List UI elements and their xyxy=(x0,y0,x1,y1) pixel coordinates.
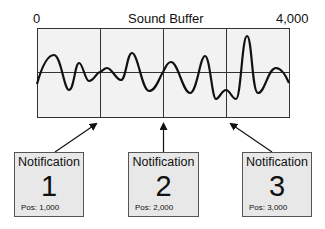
arrow-3 xyxy=(231,124,272,152)
notification-box-3: Notification 3 Pos: 3,000 xyxy=(242,152,312,217)
notification-number: 3 xyxy=(243,172,311,201)
arrow-1 xyxy=(55,124,96,152)
notification-position: Pos: 1,000 xyxy=(21,203,59,212)
notification-position: Pos: 2,000 xyxy=(135,203,173,212)
notification-box-1: Notification 1 Pos: 1,000 xyxy=(14,152,84,217)
notification-label: Notification xyxy=(243,155,311,169)
notification-number: 2 xyxy=(129,172,198,201)
notification-position: Pos: 3,000 xyxy=(249,203,287,212)
notification-label: Notification xyxy=(15,155,83,169)
notification-box-2: Notification 2 Pos: 2,000 xyxy=(128,152,199,217)
notification-label: Notification xyxy=(129,155,198,169)
notification-number: 1 xyxy=(15,172,83,201)
